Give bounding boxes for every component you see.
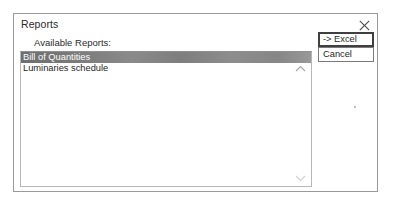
- close-glyph: [359, 20, 370, 31]
- cancel-button[interactable]: Cancel: [318, 47, 374, 62]
- dialog-button-column: -> Excel Cancel: [318, 32, 374, 63]
- list-item[interactable]: Luminaries schedule: [21, 63, 311, 74]
- artifact-speck: [354, 106, 356, 108]
- list-item[interactable]: Bill of Quantities: [21, 52, 312, 63]
- chevron-down-glyph: [295, 174, 306, 182]
- export-to-excel-label: -> Excel: [323, 34, 357, 45]
- available-reports-listbox[interactable]: Bill of Quantities Luminaries schedule: [20, 51, 312, 187]
- cancel-label: Cancel: [323, 48, 352, 61]
- close-icon[interactable]: [355, 17, 373, 33]
- dialog-title: Reports: [21, 18, 58, 30]
- available-reports-label: Available Reports:: [34, 37, 111, 48]
- chevron-up-icon[interactable]: [295, 65, 306, 73]
- reports-dialog: Reports Available Reports: Bill of Quant…: [13, 13, 378, 192]
- chevron-up-glyph: [295, 65, 306, 73]
- export-to-excel-button[interactable]: -> Excel: [318, 32, 374, 47]
- chevron-down-icon[interactable]: [295, 174, 306, 182]
